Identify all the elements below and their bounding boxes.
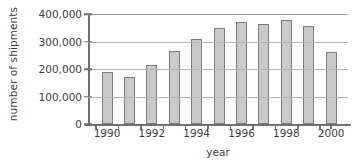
y-axis-tick	[84, 123, 92, 125]
x-axis-tick-label: 1992	[132, 127, 172, 139]
bar	[169, 51, 180, 124]
bar	[102, 72, 113, 124]
bar	[191, 39, 202, 124]
bar	[281, 20, 292, 124]
y-axis-tick	[84, 68, 92, 70]
y-axis-tick-label: 400,000	[22, 8, 82, 20]
gridline	[88, 42, 348, 43]
x-axis-tick-label: 1990	[87, 127, 127, 139]
bar	[124, 77, 135, 124]
y-axis-tick-labels: 0100,000200,000300,000400,000	[22, 0, 82, 166]
x-axis-tick-label: 1996	[222, 127, 262, 139]
gridline	[88, 14, 348, 15]
x-axis-tick-label: 1998	[266, 127, 306, 139]
y-axis-tick	[84, 13, 92, 15]
y-axis-tick-label: 0	[22, 118, 82, 130]
y-axis-tick	[84, 96, 92, 98]
bar	[303, 26, 314, 124]
y-axis-tick-label: 200,000	[22, 63, 82, 75]
x-axis-tick-labels: 199019921994199619982000	[88, 127, 354, 143]
x-axis-line	[85, 124, 351, 126]
bar	[214, 28, 225, 124]
y-axis-tick-label: 300,000	[22, 36, 82, 48]
x-axis-tick-label: 1994	[177, 127, 217, 139]
y-axis-tick-label: 100,000	[22, 91, 82, 103]
y-axis-tick	[84, 41, 92, 43]
x-axis-tick-label: 2000	[311, 127, 351, 139]
bar	[326, 52, 337, 124]
x-axis-title: year	[88, 146, 348, 158]
bar	[258, 24, 269, 124]
gridline	[88, 97, 348, 98]
bar-chart-figure: number of shipments 0100,000200,000300,0…	[0, 0, 362, 166]
gridline	[88, 69, 348, 70]
plot-area	[88, 14, 348, 124]
bar	[236, 22, 247, 124]
y-axis-title: number of shipments	[7, 0, 19, 129]
bar	[146, 65, 157, 124]
